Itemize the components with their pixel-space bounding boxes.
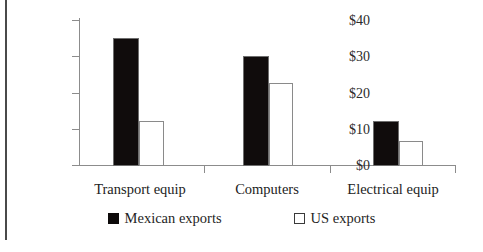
chart-legend: Mexican exports US exports bbox=[0, 211, 483, 226]
legend-swatch-open-square-icon bbox=[294, 213, 305, 224]
x-category-label-transport-equip: Transport equip bbox=[75, 182, 205, 197]
bar-chart-figure: $0 $10 $20 $30 $40 Transport equip Compu… bbox=[0, 0, 483, 252]
y-tick-label-10: $10 bbox=[349, 123, 370, 137]
page-edge-rule bbox=[5, 0, 7, 240]
legend-swatch-filled-square-icon bbox=[108, 213, 119, 224]
y-tick-mark-40 bbox=[72, 20, 80, 21]
x-category-label-electrical-equip: Electrical equip bbox=[330, 182, 456, 197]
legend-entry-mexican-exports: Mexican exports bbox=[108, 211, 222, 226]
x-category-label-computers: Computers bbox=[204, 182, 330, 197]
y-tick-label-20: $20 bbox=[349, 87, 370, 101]
y-tick-mark-10 bbox=[72, 129, 80, 130]
bar-us-exports-transport-equip bbox=[139, 121, 164, 166]
bar-us-exports-electrical-equip bbox=[399, 141, 423, 166]
x-tick-mark-1 bbox=[204, 165, 205, 173]
x-tick-mark-3 bbox=[455, 165, 456, 173]
y-tick-mark-30 bbox=[72, 56, 80, 57]
legend-label-us-exports: US exports bbox=[311, 211, 376, 226]
x-tick-mark-2 bbox=[330, 165, 331, 173]
bar-us-exports-computers bbox=[269, 83, 293, 166]
bar-mexican-exports-computers bbox=[243, 56, 269, 166]
y-tick-label-40: $40 bbox=[349, 14, 370, 28]
y-tick-label-30: $30 bbox=[349, 50, 370, 64]
legend-entry-us-exports: US exports bbox=[294, 211, 376, 226]
bar-mexican-exports-transport-equip bbox=[113, 38, 139, 166]
plot-area: $0 $10 $20 $30 $40 Transport equip Compu… bbox=[79, 18, 456, 167]
legend-label-mexican-exports: Mexican exports bbox=[125, 211, 222, 226]
y-tick-mark-20 bbox=[72, 93, 80, 94]
bar-mexican-exports-electrical-equip bbox=[373, 121, 399, 166]
y-tick-label-0: $0 bbox=[356, 159, 370, 173]
y-tick-mark-0 bbox=[72, 165, 80, 166]
